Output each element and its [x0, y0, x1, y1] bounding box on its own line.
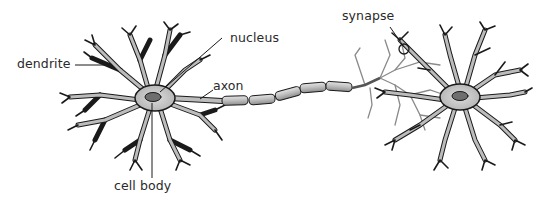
label-synapse: synapse: [342, 8, 394, 23]
neuron-diagram: dendrite nucleus axon cell body synapse: [0, 0, 537, 205]
label-cell-body: cell body: [114, 178, 171, 193]
left-neuron: [60, 22, 225, 170]
label-axon: axon: [213, 78, 244, 93]
left-nucleus: [145, 93, 161, 102]
label-nucleus: nucleus: [230, 30, 279, 45]
right-neuron: [375, 22, 532, 170]
right-nucleus: [452, 92, 468, 101]
label-dendrite: dendrite: [17, 56, 71, 71]
